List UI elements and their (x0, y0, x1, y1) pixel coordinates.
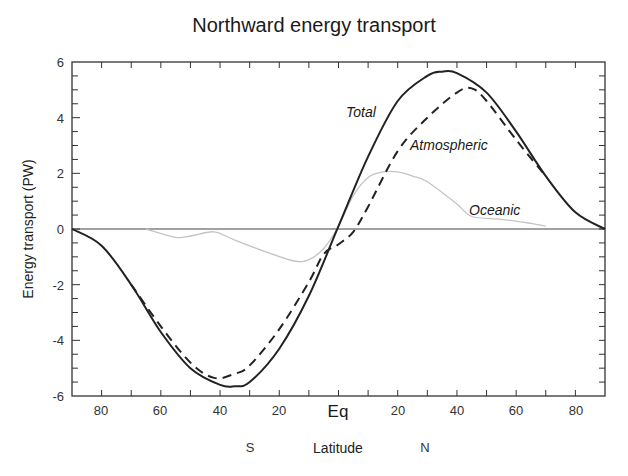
x-tick-20s: 20 (272, 403, 286, 418)
x-tick-40s: 40 (213, 403, 227, 418)
y-axis-tick-labels: 6 4 2 0 -2 -4 -6 (52, 55, 64, 404)
south-label: S (246, 440, 255, 455)
atmospheric-label: Atmospheric (409, 137, 488, 153)
atmospheric-series-line (131, 88, 546, 379)
total-label: Total (346, 104, 377, 120)
y-tick-m4: -4 (52, 333, 64, 348)
x-axis-label: Latitude (313, 440, 363, 456)
y-axis-label: Energy transport (PW) (20, 159, 36, 298)
x-tick-20n: 20 (391, 403, 405, 418)
y-tick-0: 0 (57, 222, 64, 237)
x-tick-60n: 60 (509, 403, 523, 418)
x-tick-eq: Eq (328, 402, 349, 421)
y-tick-4: 4 (57, 111, 64, 126)
x-tick-80n: 80 (569, 403, 583, 418)
oceanic-label: Oceanic (469, 202, 520, 218)
y-tick-2: 2 (57, 166, 64, 181)
y-tick-6: 6 (57, 55, 64, 70)
north-label: N (420, 440, 429, 455)
chart-canvas: 6 4 2 0 -2 -4 -6 80 60 40 20 Eq 20 40 60… (0, 0, 628, 476)
y-tick-m2: -2 (52, 278, 64, 293)
x-axis-tick-labels: 80 60 40 20 Eq 20 40 60 80 (94, 402, 583, 421)
y-tick-m6: -6 (52, 389, 64, 404)
x-tick-60s: 60 (153, 403, 167, 418)
x-tick-80s: 80 (94, 403, 108, 418)
x-tick-40n: 40 (450, 403, 464, 418)
